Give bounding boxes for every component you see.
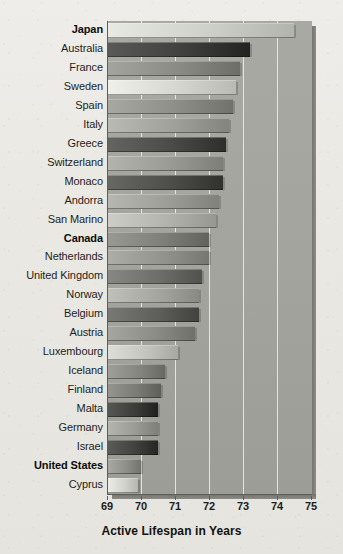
category-label-monaco: Monaco — [3, 175, 103, 187]
category-label-iceland: Iceland — [3, 364, 103, 376]
chart-row: Sweden — [0, 78, 343, 97]
bar-australia — [108, 42, 250, 57]
chart-row: Japan — [0, 21, 343, 40]
category-label-canada: Canada — [3, 232, 103, 244]
bar-netherlands — [108, 250, 209, 265]
chart-row: Spain — [0, 97, 343, 116]
bar-finland — [108, 383, 161, 398]
bar-france — [108, 61, 240, 76]
bar-san-marino — [108, 213, 216, 228]
category-label-malta: Malta — [3, 402, 103, 414]
bar-andorra — [108, 194, 219, 209]
category-label-andorra: Andorra — [3, 194, 103, 206]
category-label-japan: Japan — [3, 23, 103, 35]
category-label-finland: Finland — [3, 383, 103, 395]
chart-row: Italy — [0, 116, 343, 135]
bar-monaco — [108, 175, 223, 190]
chart-row: United States — [0, 456, 343, 475]
chart-row: Luxembourg — [0, 343, 343, 362]
bar-greece — [108, 137, 226, 152]
bar-japan — [108, 23, 294, 38]
bar-belgium — [108, 307, 199, 322]
tick-label-75: 75 — [305, 500, 317, 512]
category-label-norway: Norway — [3, 288, 103, 300]
bar-united-states — [108, 459, 141, 474]
category-label-austria: Austria — [3, 326, 103, 338]
chart-row: Switzerland — [0, 153, 343, 172]
tick-label-72: 72 — [203, 500, 215, 512]
x-axis-line — [107, 494, 312, 495]
bar-chart: JapanAustraliaFranceSwedenSpainItalyGree… — [0, 0, 343, 554]
category-label-luxembourg: Luxembourg — [3, 345, 103, 357]
category-label-switzerland: Switzerland — [3, 156, 103, 168]
chart-row: Austria — [0, 324, 343, 343]
category-label-united-kingdom: United Kingdom — [3, 269, 103, 281]
bar-cyprus — [108, 478, 138, 493]
category-label-spain: Spain — [3, 99, 103, 111]
chart-row: Monaco — [0, 172, 343, 191]
chart-row: Germany — [0, 418, 343, 437]
chart-row: Netherlands — [0, 248, 343, 267]
category-label-italy: Italy — [3, 118, 103, 130]
category-label-netherlands: Netherlands — [3, 250, 103, 262]
tick-label-74: 74 — [271, 500, 283, 512]
category-label-belgium: Belgium — [3, 307, 103, 319]
tick-label-73: 73 — [237, 500, 249, 512]
chart-row: San Marino — [0, 210, 343, 229]
tick-label-69: 69 — [101, 500, 113, 512]
bar-norway — [108, 288, 199, 303]
category-label-sweden: Sweden — [3, 80, 103, 92]
category-label-germany: Germany — [3, 421, 103, 433]
chart-row: Norway — [0, 286, 343, 305]
chart-row: United Kingdom — [0, 267, 343, 286]
page-background: JapanAustraliaFranceSwedenSpainItalyGree… — [0, 0, 343, 554]
category-label-san-marino: San Marino — [3, 213, 103, 225]
chart-row: Finland — [0, 380, 343, 399]
bar-spain — [108, 99, 233, 114]
bar-germany — [108, 421, 158, 436]
chart-row: Australia — [0, 40, 343, 59]
category-label-france: France — [3, 61, 103, 73]
chart-row: Andorra — [0, 191, 343, 210]
x-axis-title: Active Lifespan in Years — [0, 524, 343, 538]
chart-row: Belgium — [0, 305, 343, 324]
tick-label-70: 70 — [135, 500, 147, 512]
bar-austria — [108, 326, 195, 341]
chart-row: Cyprus — [0, 475, 343, 494]
bar-luxembourg — [108, 345, 178, 360]
bar-canada — [108, 232, 209, 247]
bar-iceland — [108, 364, 165, 379]
bar-switzerland — [108, 156, 223, 171]
tick-label-71: 71 — [169, 500, 181, 512]
bar-sweden — [108, 80, 236, 95]
category-label-cyprus: Cyprus — [3, 478, 103, 490]
chart-row: Canada — [0, 229, 343, 248]
category-label-united-states: United States — [3, 459, 103, 471]
bar-united-kingdom — [108, 269, 202, 284]
chart-row: Iceland — [0, 362, 343, 381]
bar-malta — [108, 402, 158, 417]
category-label-australia: Australia — [3, 42, 103, 54]
bar-italy — [108, 118, 229, 133]
chart-row: Israel — [0, 437, 343, 456]
category-label-israel: Israel — [3, 440, 103, 452]
category-label-greece: Greece — [3, 137, 103, 149]
bar-israel — [108, 440, 158, 455]
chart-row: Malta — [0, 399, 343, 418]
chart-row: Greece — [0, 135, 343, 154]
chart-row: France — [0, 59, 343, 78]
